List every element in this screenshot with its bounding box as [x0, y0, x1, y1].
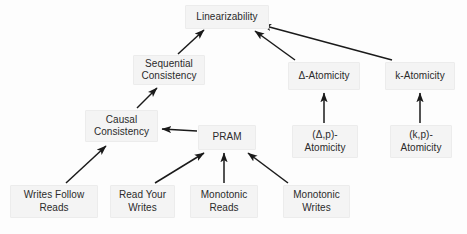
node-label-delta_atomicity: Δ-Atomicity — [295, 70, 352, 83]
edges-group — [66, 25, 420, 183]
node-pram[interactable]: PRAM — [198, 125, 256, 150]
node-causal[interactable]: Causal Consistency — [85, 110, 158, 142]
node-linearizability[interactable]: Linearizability — [185, 5, 269, 29]
edge-delta-atomicity-to-linearizability — [255, 31, 295, 60]
edge-writes-follow-to-causal — [66, 146, 106, 183]
node-label-k_p_atomicity: (k,p)- Atomicity — [397, 129, 444, 154]
edge-pram-to-causal — [162, 129, 197, 131]
node-label-writes_follow: Writes Follow Reads — [21, 189, 87, 214]
node-k_p_atomicity[interactable]: (k,p)- Atomicity — [390, 125, 452, 158]
node-label-k_atomicity: k-Atomicity — [392, 70, 447, 83]
node-label-pram: PRAM — [209, 131, 244, 144]
node-sequential[interactable]: Sequential Consistency — [133, 55, 205, 85]
edge-causal-to-sequential — [137, 88, 157, 108]
edge-k-atomicity-to-linearizability — [262, 25, 392, 60]
edge-read-your-writes-to-pram — [155, 153, 204, 183]
node-label-sequential: Sequential Consistency — [138, 58, 199, 83]
node-label-causal: Causal Consistency — [91, 114, 152, 139]
node-label-linearizability: Linearizability — [193, 11, 260, 24]
diagram-canvas: LinearizabilitySequential ConsistencyΔ-A… — [0, 0, 467, 234]
node-monotonic_writes[interactable]: Monotonic Writes — [283, 185, 350, 218]
node-label-read_your_writes: Read Your Writes — [116, 189, 169, 214]
node-writes_follow[interactable]: Writes Follow Reads — [10, 185, 98, 218]
node-monotonic_reads[interactable]: Monotonic Reads — [190, 185, 258, 218]
node-label-monotonic_writes: Monotonic Writes — [290, 189, 343, 214]
node-label-monotonic_reads: Monotonic Reads — [198, 189, 251, 214]
node-read_your_writes[interactable]: Read Your Writes — [110, 185, 175, 218]
node-delta_atomicity[interactable]: Δ-Atomicity — [288, 62, 360, 90]
node-delta_p_atomicity[interactable]: (Δ,p)- Atomicity — [292, 125, 358, 158]
edge-sequential-to-linearizability — [178, 30, 204, 54]
node-k_atomicity[interactable]: k-Atomicity — [385, 62, 455, 90]
node-label-delta_p_atomicity: (Δ,p)- Atomicity — [301, 129, 348, 154]
edge-monotonic-writes-to-pram — [248, 153, 288, 183]
